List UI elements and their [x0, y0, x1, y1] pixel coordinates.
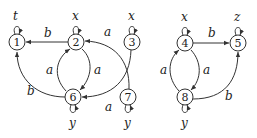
edge-label: b	[225, 89, 233, 103]
loop-label-4: x	[181, 10, 188, 24]
edge-label: a	[46, 63, 53, 77]
loop-label-5: z	[233, 10, 241, 24]
edge-6-to-2: a	[46, 49, 70, 91]
loop-label-8: y	[180, 116, 188, 130]
node-8: 8	[177, 89, 193, 105]
node-5: 5	[230, 35, 246, 51]
edge-label: a	[203, 63, 210, 77]
edge-label: a	[104, 25, 111, 39]
edge-4-to-8: a	[191, 50, 210, 90]
node-1: 1	[9, 34, 25, 50]
node-label: 4	[182, 37, 189, 50]
automaton-diagram: b b a a a a b b a a	[0, 0, 257, 138]
edge-label: b	[27, 84, 35, 98]
node-label: 6	[70, 91, 77, 104]
node-3: 3	[124, 34, 140, 50]
loop-label-7: y	[123, 116, 131, 130]
node-label: 8	[182, 91, 189, 104]
edge-label: a	[105, 100, 112, 114]
edge-label: b	[44, 26, 52, 40]
node-label: 1	[14, 36, 21, 49]
loop-label-2: x	[72, 9, 79, 23]
loop-label-3: x	[128, 9, 135, 23]
node-label: 2	[73, 36, 80, 49]
edge-label: a	[160, 63, 167, 77]
edge-8-to-5: b	[193, 52, 238, 103]
edge-8-to-4: a	[160, 50, 179, 91]
node-label: 3	[129, 36, 136, 49]
node-label: 7	[125, 91, 132, 104]
node-label: 5	[235, 37, 242, 50]
edge-4-to-5: b	[193, 26, 229, 43]
edge-label: a	[94, 63, 101, 77]
edge-label: b	[208, 26, 216, 40]
node-7: 7	[120, 89, 136, 105]
loop-label-6: y	[68, 116, 76, 130]
edge-2-to-1: b	[26, 26, 68, 42]
node-2: 2	[68, 34, 84, 50]
edge-2-to-6: a	[80, 49, 101, 90]
node-4: 4	[177, 35, 193, 51]
node-6: 6	[65, 89, 81, 105]
loop-label-1: t	[13, 9, 18, 23]
